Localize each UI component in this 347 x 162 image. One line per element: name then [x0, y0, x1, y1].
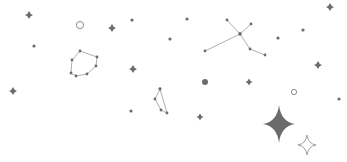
constellation-star-icon [160, 109, 163, 112]
feature-stars [263, 105, 316, 155]
constellation-star-icon [250, 23, 253, 26]
planet-circles [76, 21, 296, 94]
star-dots [32, 17, 340, 112]
sparkle-icon [314, 61, 322, 69]
hollow-planet-icon [291, 89, 296, 94]
starry-sky-illustration [0, 0, 347, 162]
constellation-star-icon [96, 56, 99, 59]
constellation-cross-line [240, 34, 265, 55]
constellation-star-icon [70, 72, 73, 75]
constellation-star-icon [71, 59, 74, 62]
constellation-star-icon [79, 50, 82, 53]
sparkle-icon [108, 24, 116, 32]
sparkle-icon [25, 11, 33, 19]
filled-planet-icon [202, 79, 208, 85]
constellation-star-icon [249, 48, 252, 51]
star-dot-icon [301, 28, 304, 31]
constellation-star-icon [86, 73, 89, 76]
constellation-star-icon [75, 75, 78, 78]
constellation-star-icon [264, 54, 267, 57]
sparkle-icon [197, 114, 204, 121]
constellation-lines [70, 19, 267, 115]
outline-sparkle-icon [298, 135, 316, 155]
constellation-star-icon [204, 50, 207, 53]
constellation-star-icon [159, 88, 162, 91]
star-dot-icon [276, 36, 279, 39]
big-sparkle-icon [263, 105, 295, 143]
star-dot-icon [168, 37, 171, 40]
constellation-cross-line [205, 34, 240, 51]
star-dot-icon [130, 18, 133, 21]
constellation-cross-line [227, 20, 251, 34]
star-dot-icon [337, 97, 340, 100]
constellation-star-icon [95, 65, 98, 68]
sparkle-icon [246, 79, 253, 86]
constellation-star-icon [166, 112, 169, 115]
star-dot-icon [129, 109, 132, 112]
constellation-star-icon [239, 33, 242, 36]
constellation-star-icon [226, 19, 229, 22]
sparkle-icon [129, 65, 137, 73]
sparkle-icon [9, 87, 17, 95]
constellation-polygon-line [71, 51, 97, 76]
star-dot-icon [185, 17, 188, 20]
sparkle-icon [326, 3, 334, 11]
star-dot-icon [32, 44, 35, 47]
sparkle-stars [9, 3, 334, 121]
constellation-star-icon [154, 98, 157, 101]
hollow-planet-icon [76, 21, 83, 28]
